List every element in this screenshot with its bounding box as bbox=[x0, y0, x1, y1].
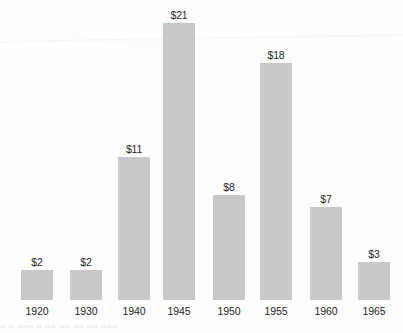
bar-value-label: $3 bbox=[358, 248, 390, 260]
bar-value-label: $2 bbox=[70, 256, 102, 268]
bar-1965 bbox=[358, 262, 390, 300]
x-tick-label-1955: 1955 bbox=[260, 305, 292, 317]
bar-1950 bbox=[213, 195, 245, 300]
x-tick-label-1930: 1930 bbox=[70, 305, 102, 317]
x-tick-label-1940: 1940 bbox=[118, 305, 150, 317]
bar-value-label: $8 bbox=[213, 181, 245, 193]
plot-area: $2 1920 $2 1930 $11 1940 $21 1945 $8 195… bbox=[0, 0, 403, 333]
bar-value-label: $18 bbox=[260, 49, 292, 61]
x-tick-label-1950: 1950 bbox=[213, 305, 245, 317]
x-tick-label-1920: 1920 bbox=[21, 305, 53, 317]
bar-chart: $2 1920 $2 1930 $11 1940 $21 1945 $8 195… bbox=[0, 0, 403, 333]
cropped-caption-fragment: a a aaa a aa aa aa aa aaa bbox=[0, 325, 403, 333]
cropped-caption-text: a a aaa a aa aa aa aa aaa bbox=[0, 325, 403, 330]
bar-value-label: $21 bbox=[163, 9, 195, 21]
bar-value-label: $11 bbox=[118, 143, 150, 155]
bar-1920 bbox=[21, 270, 53, 300]
x-tick-label-1965: 1965 bbox=[358, 305, 390, 317]
bar-1945 bbox=[163, 23, 195, 300]
bar-value-label: $2 bbox=[21, 256, 53, 268]
bar-value-label: $7 bbox=[310, 193, 342, 205]
x-tick-label-1960: 1960 bbox=[310, 305, 342, 317]
bar-1930 bbox=[70, 270, 102, 300]
bar-1960 bbox=[310, 207, 342, 300]
bar-1940 bbox=[118, 157, 150, 300]
x-tick-label-1945: 1945 bbox=[163, 305, 195, 317]
bar-1955 bbox=[260, 63, 292, 300]
